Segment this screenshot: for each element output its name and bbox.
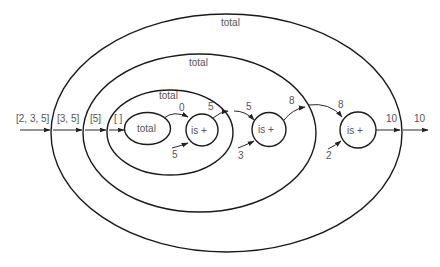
head1-label: 5 — [172, 149, 178, 160]
base-total-label: total — [137, 123, 156, 134]
add-label-3: is + — [347, 125, 363, 136]
arrow-head3 — [328, 141, 341, 149]
add-node-2: is + — [252, 113, 286, 147]
list0-label: [2, 3, 5] — [16, 113, 50, 124]
final-out-label: 10 — [414, 113, 426, 124]
add-label-2: is + — [258, 124, 274, 135]
head3-label: 2 — [326, 150, 332, 161]
sum2-in-label: 8 — [338, 99, 344, 110]
inner-total-label: total — [159, 90, 178, 101]
base-result-label: 0 — [179, 102, 185, 113]
sum3-out-label: 10 — [386, 113, 398, 124]
edge-head2: 3 — [238, 141, 254, 161]
sum1-in-label: 5 — [246, 101, 252, 112]
head2-label: 3 — [238, 150, 244, 161]
arrow-sum1-in — [234, 111, 254, 120]
add-label-1: is + — [191, 125, 207, 136]
base-total-call: total — [125, 113, 171, 145]
list1-label: [3, 5] — [57, 113, 79, 124]
edge-sum1: 5 5 — [208, 101, 254, 120]
arrow-head1 — [172, 143, 188, 148]
list2-label: [5] — [90, 113, 101, 124]
add-node-1: is + — [186, 114, 218, 146]
sum1-out-label: 5 — [208, 101, 214, 112]
recursion-diagram: total total total total is + is + is + [… — [0, 0, 440, 267]
arrow-head2 — [238, 141, 254, 148]
list3-label: [ ] — [114, 113, 123, 124]
arrow-base-to-add1 — [164, 114, 188, 118]
edge-head1: 5 — [172, 143, 188, 160]
add-node-3: is + — [340, 112, 376, 148]
arrow-sum2-out — [284, 107, 305, 120]
edge-head3: 2 — [326, 141, 341, 161]
middle-total-label: total — [189, 57, 208, 68]
edge-base-result: 0 — [164, 102, 188, 118]
outer-total-label: total — [221, 17, 240, 28]
sum2-out-label: 8 — [289, 95, 295, 106]
